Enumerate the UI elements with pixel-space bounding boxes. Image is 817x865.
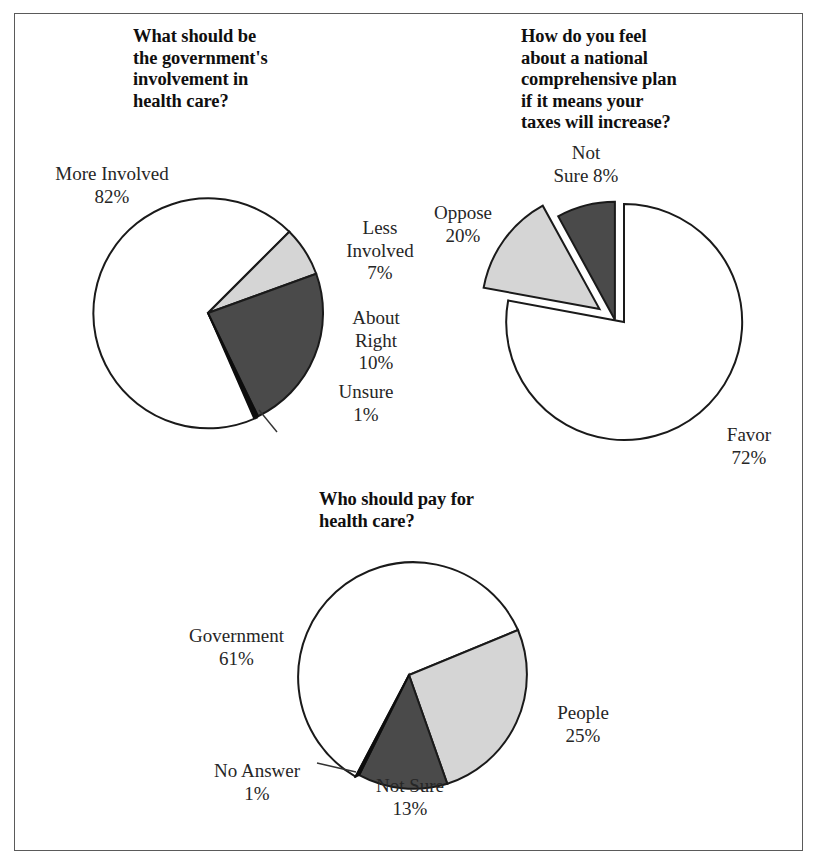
chart-title-national-plan-taxes: How do you feel about a national compreh… bbox=[521, 26, 791, 134]
page-root: What should be the government's involvem… bbox=[0, 0, 817, 865]
pie-label-favor: Favor 72% bbox=[707, 424, 791, 469]
pie-label-government: Government 61% bbox=[169, 625, 304, 670]
pie-label-about-right: About Right 10% bbox=[330, 307, 422, 375]
pie-label-not-sure-taxes: Not Sure 8% bbox=[536, 142, 636, 187]
pie-label-unsure: Unsure 1% bbox=[320, 381, 412, 426]
chart-title-government-involvement: What should be the government's involvem… bbox=[133, 26, 383, 112]
pie-label-people: People 25% bbox=[538, 702, 628, 747]
pie-label-oppose: Oppose 20% bbox=[420, 202, 506, 247]
pie-label-no-answer: No Answer 1% bbox=[196, 760, 318, 805]
pie-label-more-involved: More Involved 82% bbox=[36, 163, 188, 208]
leader-line-unsure bbox=[259, 410, 277, 432]
pie-label-less-involved: Less Involved 7% bbox=[330, 217, 430, 285]
pie-label-not-sure-pay: Not Sure 13% bbox=[358, 775, 462, 820]
